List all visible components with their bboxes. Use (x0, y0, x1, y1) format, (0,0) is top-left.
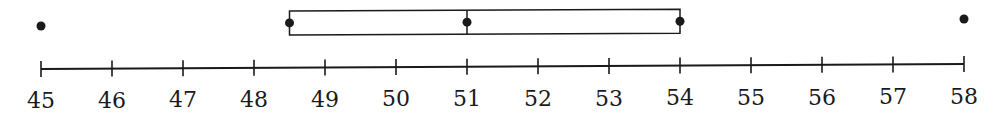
tick-label: 53 (595, 86, 623, 111)
tick-label: 49 (311, 87, 339, 112)
tick-labels: 4546474849505152535455565758 (27, 84, 978, 113)
outlier-point (960, 15, 969, 24)
tick-label: 56 (808, 85, 836, 110)
axis-line (41, 64, 964, 69)
tick-label: 57 (879, 84, 907, 109)
tick-label: 54 (666, 85, 694, 110)
tick-label: 46 (98, 88, 126, 113)
box (290, 9, 681, 35)
tick-label: 45 (27, 88, 55, 113)
box-point-marker (285, 18, 294, 27)
interquartile-box (290, 9, 681, 35)
number-line-axis (41, 56, 964, 77)
tick-label: 51 (453, 86, 481, 111)
data-points (37, 15, 969, 31)
tick-label: 52 (524, 86, 552, 111)
outlier-point (37, 22, 46, 31)
tick-label: 55 (737, 85, 765, 110)
tick-label: 50 (382, 86, 410, 111)
box-plot: 4546474849505152535455565758 (0, 0, 1007, 116)
tick-label: 47 (169, 87, 197, 112)
box-point-marker (463, 18, 472, 27)
tick-label: 58 (950, 84, 978, 109)
box-point-marker (676, 17, 685, 26)
tick-label: 48 (240, 87, 268, 112)
